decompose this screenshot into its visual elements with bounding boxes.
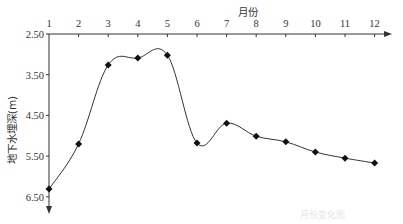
- x-axis-arrow-icon: [384, 31, 392, 37]
- figure-caption: 月份变化图: [300, 208, 345, 221]
- x-tick-label: 7: [224, 18, 229, 29]
- data-point-markers: [46, 52, 379, 193]
- x-tick-label: 2: [76, 18, 81, 29]
- y-axis-arrow-icon: [46, 206, 52, 214]
- x-tick-label: 4: [135, 18, 141, 29]
- series-line: [49, 49, 375, 189]
- x-tick-label: 1: [46, 18, 51, 29]
- data-point-marker: [253, 133, 260, 140]
- data-point-marker: [46, 186, 53, 193]
- x-tick-label: 10: [310, 18, 321, 29]
- x-axis-title: 月份: [238, 6, 259, 18]
- x-tick-label: 5: [165, 18, 170, 29]
- y-tick-label: 4.50: [26, 110, 44, 121]
- y-tick-label: 3.50: [26, 70, 44, 81]
- x-tick-label: 3: [106, 18, 111, 29]
- data-point-marker: [312, 149, 319, 156]
- data-point-marker: [223, 120, 230, 127]
- y-axis-ticks: 2.503.504.505.506.50: [26, 29, 49, 203]
- data-point-marker: [282, 138, 289, 145]
- data-point-marker: [371, 160, 378, 167]
- groundwater-depth-chart: 123456789101112 2.503.504.505.506.50 月份 …: [0, 0, 403, 224]
- y-tick-label: 6.50: [26, 192, 44, 203]
- x-tick-label: 6: [194, 18, 199, 29]
- x-tick-label: 11: [340, 18, 350, 29]
- data-point-marker: [75, 140, 82, 147]
- x-tick-label: 9: [283, 18, 288, 29]
- data-point-marker: [342, 155, 349, 162]
- axes: [46, 31, 392, 214]
- y-tick-label: 5.50: [26, 151, 44, 162]
- y-tick-label: 2.50: [26, 29, 44, 40]
- x-tick-label: 12: [369, 18, 380, 29]
- y-axis-title: 地下水埋深(m): [6, 96, 18, 164]
- data-point-marker: [134, 55, 141, 62]
- x-tick-label: 8: [254, 18, 259, 29]
